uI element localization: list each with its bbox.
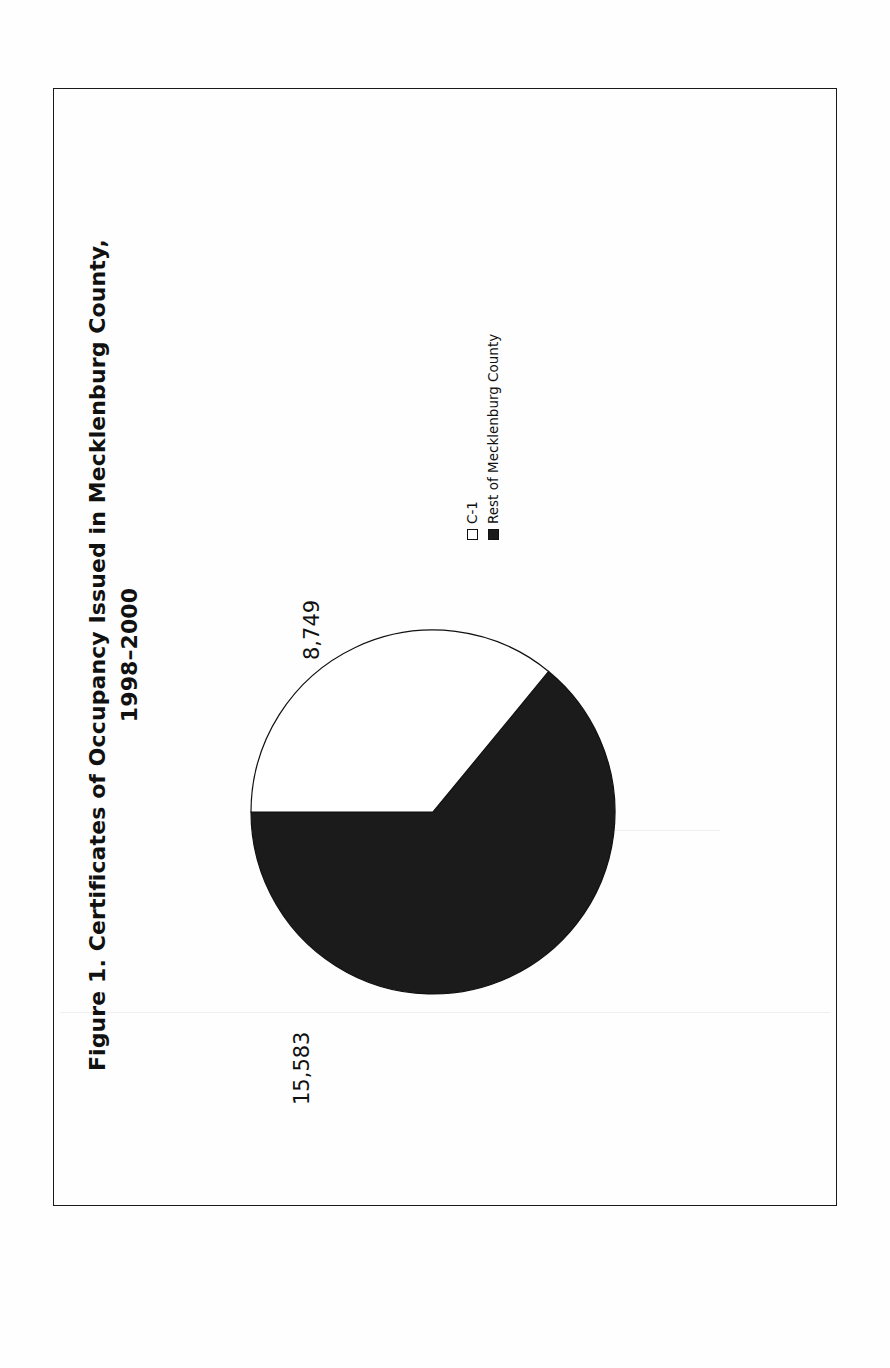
scanned-page: Figure 1. Certificates of Occupancy Issu… — [0, 0, 890, 1368]
legend-item-c1: C-1 — [466, 334, 480, 540]
pie-chart-svg — [248, 627, 618, 997]
legend-label-c1: C-1 — [466, 501, 480, 524]
chart-legend: C-1 Rest of Mecklenburg County — [466, 334, 500, 540]
pie-chart — [248, 627, 618, 997]
legend-item-rest-of-mecklenburg-county: Rest of Mecklenburg County — [487, 334, 501, 540]
legend-swatch-filled-square-icon — [488, 529, 499, 540]
figure-title-line-2: 1998–2000 — [114, 150, 146, 1160]
data-label-rest-of-mecklenburg-county: 15,583 — [290, 1032, 314, 1105]
data-label-c1: 8,749 — [300, 600, 324, 660]
figure-title-line-1: Figure 1. Certificates of Occupancy Issu… — [82, 150, 114, 1160]
figure-title: Figure 1. Certificates of Occupancy Issu… — [82, 150, 146, 1160]
legend-swatch-open-square-icon — [467, 529, 478, 540]
legend-label-rest: Rest of Mecklenburg County — [487, 334, 501, 524]
